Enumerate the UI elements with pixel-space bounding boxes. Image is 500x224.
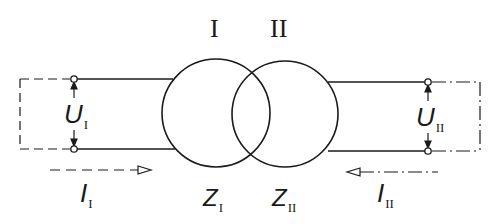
impedance-label-2: ZII [272, 186, 296, 210]
left-dashed-loop [20, 79, 70, 149]
left-voltage-label: UI [64, 101, 88, 127]
winding-label-1: I [210, 16, 219, 42]
transformer-diagram: I II ZI ZII UI UII II III [0, 0, 500, 224]
left-bottom-terminal [71, 146, 77, 152]
right-current-label: III [377, 180, 394, 206]
winding-circle-2 [232, 61, 338, 167]
winding-circle-1 [162, 59, 270, 167]
right-top-terminal [425, 79, 431, 85]
right-voltage-label: UII [416, 104, 444, 130]
impedance-label-1: ZI [203, 186, 223, 210]
left-current-label: II [80, 180, 93, 206]
winding-label-2: II [270, 16, 287, 42]
left-current-arrow [50, 166, 151, 174]
right-current-arrow [347, 168, 438, 176]
left-top-terminal [71, 76, 77, 82]
right-bottom-terminal [425, 148, 431, 154]
